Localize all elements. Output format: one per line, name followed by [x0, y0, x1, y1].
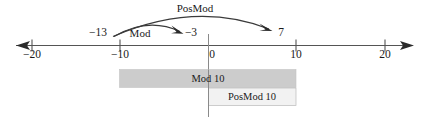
tick-label-20: 20: [379, 49, 391, 61]
posmod-arc-label: PosMod: [177, 3, 214, 14]
mod-arc-label: Mod: [130, 28, 151, 39]
point-label--3: −3: [185, 27, 197, 39]
point-label-7: 7: [278, 27, 284, 39]
tick-label-0: 0: [209, 49, 215, 61]
number-line-figure: −20 −10 0 10 20 −13 −3 7 Mod PosMod Mod …: [0, 0, 426, 119]
point-label--13: −13: [89, 27, 107, 39]
posmod-arc-arrowhead: [260, 24, 273, 32]
tick-label--20: −20: [23, 49, 41, 61]
posmod-band-label: PosMod 10: [228, 91, 276, 102]
tick-label--10: −10: [111, 49, 129, 61]
mod-arc-arrowhead: [171, 26, 184, 34]
tick-label-10: 10: [290, 49, 302, 61]
mod-band-label: Mod 10: [192, 73, 225, 84]
